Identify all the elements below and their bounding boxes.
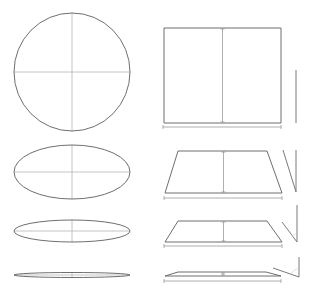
viewing-angle-marker-2 — [283, 150, 296, 192]
circle-foreshortening-column — [14, 13, 130, 278]
line-of-sight — [282, 222, 297, 242]
angle-arc — [292, 234, 297, 236]
foreshortening-diagram — [0, 0, 316, 297]
viewing-angle-marker-4 — [273, 257, 299, 277]
line-of-sight — [283, 150, 296, 192]
plane-figure-1 — [163, 28, 281, 129]
angle-arc — [291, 269, 299, 274]
ellipse-figure-1 — [14, 13, 130, 131]
diagram-canvas — [0, 0, 316, 297]
viewing-angle-marker-3 — [282, 205, 297, 242]
ellipse-figure-4 — [14, 273, 130, 278]
plane-figure-4 — [164, 272, 281, 283]
plane-figure-3 — [164, 221, 282, 248]
ellipse-figure-2 — [14, 145, 130, 199]
square-foreshortening-column — [163, 28, 282, 283]
ellipse-figure-3 — [14, 220, 130, 242]
plane-figure-2 — [164, 151, 282, 200]
